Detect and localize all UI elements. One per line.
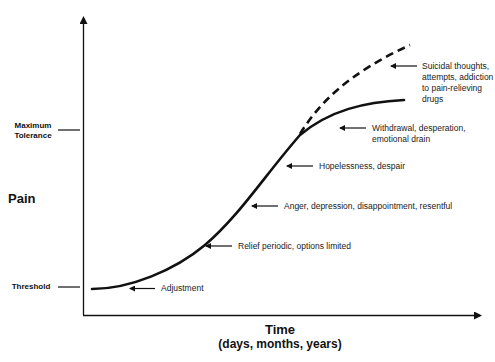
withdrawal-line2: emotional drain — [372, 134, 466, 145]
x-axis-title: Time — [200, 322, 360, 337]
y-axis-label: Pain — [8, 191, 35, 206]
max-tolerance-line1: Maximum — [10, 121, 56, 131]
suicidal-line2: attempts, addiction — [422, 72, 493, 83]
stage-label-relief: Relief periodic, options limited — [238, 241, 351, 252]
suicidal-line3: to pain-relieving — [422, 83, 493, 94]
threshold-line1: Threshold — [8, 282, 54, 292]
stage-label-anger: Anger, depression, disappointment, resen… — [284, 201, 452, 212]
threshold-label: Threshold — [8, 282, 54, 292]
diagram-canvas — [0, 0, 495, 362]
stage-label-adjustment: Adjustment — [161, 283, 204, 294]
stage-label-withdrawal: Withdrawal, desperation, emotional drain — [372, 123, 466, 145]
x-axis-subtitle: (days, months, years) — [200, 337, 360, 352]
stage-label-hopelessness: Hopelessness, despair — [319, 161, 405, 172]
withdrawal-line1: Withdrawal, desperation, — [372, 123, 466, 134]
stage-label-suicidal: Suicidal thoughts, attempts, addiction t… — [422, 61, 493, 105]
max-tolerance-line2: Tolerance — [10, 131, 56, 141]
suicidal-line1: Suicidal thoughts, — [422, 61, 493, 72]
suicidal-line4: drugs — [422, 94, 493, 105]
escalation-curve — [300, 45, 410, 134]
max-tolerance-label: Maximum Tolerance — [10, 121, 56, 141]
x-axis-label: Time (days, months, years) — [200, 322, 360, 352]
